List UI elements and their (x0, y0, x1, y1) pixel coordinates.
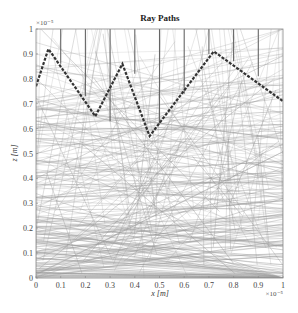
y-tick-label: 0.2 (23, 224, 33, 233)
y-axis-multiplier: ×10⁻⁵ (36, 19, 54, 27)
y-tick-label: 0.7 (23, 100, 33, 109)
ray-paths-chart: Ray Paths 00.10.20.30.40.50.60.70.80.91 … (0, 0, 298, 313)
x-tick-label: 0.4 (130, 281, 140, 290)
y-tick-label: 0.3 (23, 199, 33, 208)
x-tick-label: 0.9 (253, 281, 263, 290)
x-tick-label: 0.1 (56, 281, 66, 290)
y-tick-label: 0.6 (23, 125, 33, 134)
x-tick-label: 0 (34, 281, 38, 290)
x-tick-label: 0.8 (229, 281, 239, 290)
x-tick-label: 0.2 (80, 281, 90, 290)
y-tick-label: 0.1 (23, 249, 33, 258)
y-axis-label: z [m] (10, 144, 19, 162)
y-tick-label: 0 (29, 274, 33, 283)
y-tick-label: 0.9 (23, 50, 33, 59)
y-tick-label: 0.4 (23, 174, 33, 183)
x-axis-label: x [m] (150, 289, 169, 298)
chart-title: Ray Paths (140, 13, 180, 23)
x-axis-multiplier: ×10⁻⁵ (266, 290, 284, 298)
y-tick-label: 1 (29, 25, 33, 34)
x-tick-label: 0.3 (105, 281, 115, 290)
x-tick-label: 0.7 (204, 281, 214, 290)
x-tick-label: 0.6 (179, 281, 189, 290)
y-tick-label: 0.8 (23, 75, 33, 84)
y-tick-label: 0.5 (23, 150, 33, 159)
x-tick-label: 1 (281, 281, 285, 290)
